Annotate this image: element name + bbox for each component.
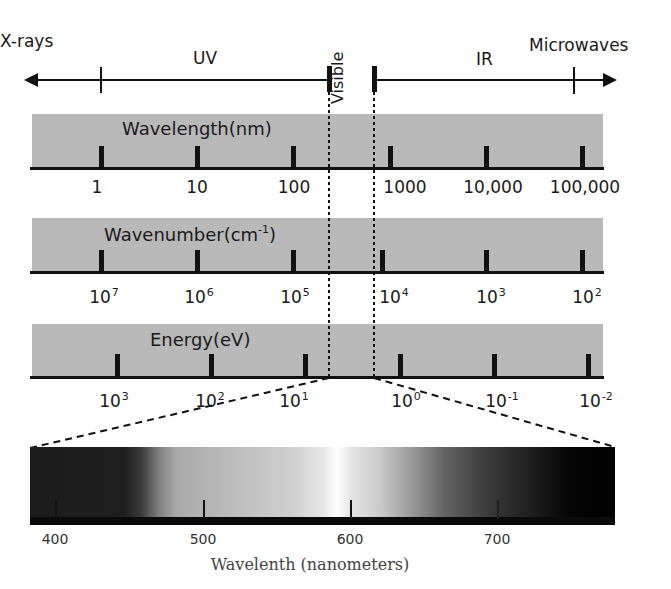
zoom-right-dashed-line bbox=[374, 378, 615, 447]
spectrum-tick-label: 700 bbox=[484, 532, 511, 546]
spectrum-tick bbox=[350, 500, 352, 519]
spectrum-tick bbox=[497, 500, 499, 519]
spectrum-tick-label: 500 bbox=[190, 532, 217, 546]
spectrum-tick-label: 600 bbox=[337, 532, 364, 546]
spectrum-tick-label: 400 bbox=[42, 532, 69, 546]
visible-spectrum-baseline bbox=[30, 517, 615, 525]
spectrum-axis-label: Wavelenth (nanometers) bbox=[10, 557, 610, 573]
visible-spectrum-gradient bbox=[30, 447, 615, 519]
zoom-left-dashed-line bbox=[30, 378, 329, 448]
spectrum-tick bbox=[203, 500, 205, 519]
spectrum-tick bbox=[55, 500, 57, 519]
